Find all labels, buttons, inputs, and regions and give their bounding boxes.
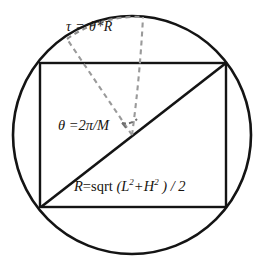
radius-sqrt-text: sqrt [91,178,113,194]
radius-symbol: R [74,178,83,194]
radius-open-paren: ( [113,178,121,194]
arc-length-label: τ = θ*R [66,20,113,34]
figure-canvas [0,0,263,268]
radius-close-paren: ) / 2 [159,178,186,194]
arc-length-equals: = [71,19,89,34]
radius-formula-label: R=sqrt (L2+H2 ) / 2 [74,178,186,193]
radius-height-symbol: H [144,178,154,194]
arc-length-expression: θ*R [89,19,113,34]
geometry-diagram: τ = θ*R θ =2π/M R=sqrt (L2+H2 ) / 2 [0,0,263,268]
angle-expression: 2π/M [79,117,110,133]
angle-label: θ =2π/M [58,118,109,133]
dashed-radius-right [132,17,143,135]
angle-equals: = [65,117,78,133]
radius-plus: + [134,178,144,194]
radius-equals: = [83,178,91,194]
